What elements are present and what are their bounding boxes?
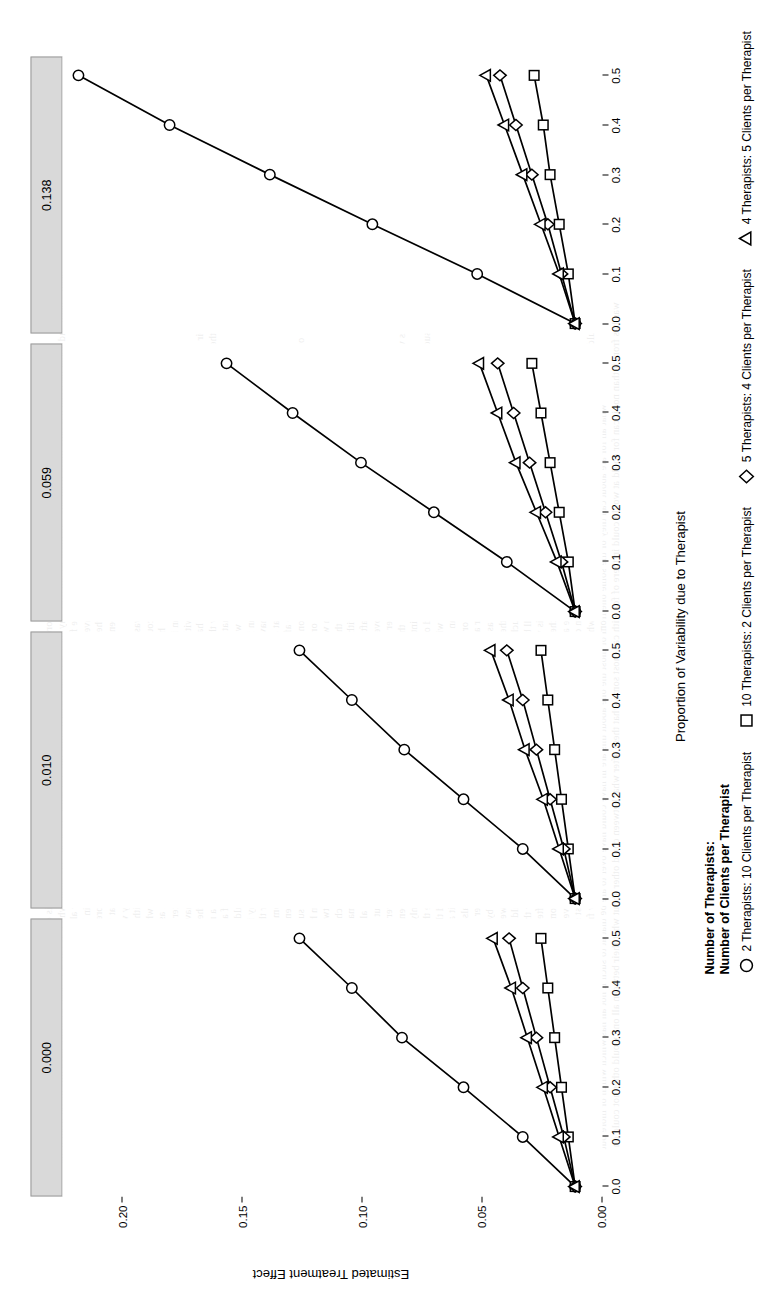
data-point: [517, 1131, 527, 1141]
data-point: [294, 645, 304, 655]
x-tick-mark: [602, 937, 608, 938]
data-point: [545, 170, 555, 180]
x-tick-mark: [602, 1135, 608, 1136]
series-line: [226, 363, 575, 611]
data-point: [346, 982, 356, 992]
x-tick-label: 0.1: [609, 1128, 621, 1144]
x-tick-label: 0.5: [609, 930, 621, 946]
x-tick-mark: [602, 649, 608, 650]
panel-strip-label: 0.010: [30, 631, 62, 909]
x-tick-mark: [602, 511, 608, 512]
legend-entry-label: 5 Therapists: 4 Clients per Therapist: [739, 269, 753, 462]
data-point: [516, 695, 528, 706]
data-point: [543, 695, 553, 705]
data-point: [549, 1032, 559, 1042]
legend-entries: 2 Therapists: 10 Clients per Therapist10…: [737, 56, 755, 974]
data-point: [486, 932, 497, 944]
x-tick-label: 0.2: [609, 216, 621, 232]
legend-entry: 2 Therapists: 10 Clients per Therapist: [737, 751, 755, 974]
y-axis: 0.000.050.100.150.20: [30, 1196, 630, 1242]
legend: Number of Therapists: Number of Clients …: [702, 56, 755, 1196]
x-tick-mark: [602, 362, 608, 363]
data-point: [73, 70, 83, 80]
x-tick-mark: [602, 898, 608, 899]
rotated-page-wrapper: which this more any when and some be tha…: [0, 0, 759, 1292]
panel-plot-area: [62, 56, 602, 334]
x-tick-label: 0.1: [609, 266, 621, 282]
x-tick-label: 0.4: [609, 692, 621, 708]
x-tick-mark: [602, 848, 608, 849]
y-tick-mark: [121, 1196, 122, 1202]
legend-title-line-1: Number of Therapists:: [702, 56, 717, 974]
data-point: [536, 646, 546, 656]
y-tick-label: 0.15: [236, 1205, 248, 1227]
x-tick-mark: [602, 987, 608, 988]
data-point: [502, 932, 514, 943]
data-point: [507, 407, 519, 418]
x-tick-mark: [602, 798, 608, 799]
data-point: [517, 844, 527, 854]
panel-series-canvas: [62, 918, 602, 1196]
panel-strip-label: 0.138: [30, 56, 62, 334]
y-tick-label: 0.00: [595, 1205, 607, 1227]
x-tick-mark: [602, 273, 608, 274]
data-point: [287, 407, 297, 417]
x-tick-label: 0.3: [609, 167, 621, 183]
x-tick-label: 0.0: [609, 603, 621, 619]
data-point: [543, 983, 553, 993]
panel-plot-area: [62, 631, 602, 909]
panel-series-canvas: [62, 343, 602, 621]
panel: 0.0590.00.10.20.30.40.5: [30, 344, 630, 622]
x-tick-mark: [602, 560, 608, 561]
data-point: [264, 169, 274, 179]
circle-marker-icon: [737, 956, 755, 974]
x-tick-label: 0.4: [609, 405, 621, 421]
x-tick-mark: [602, 461, 608, 462]
data-point: [530, 744, 542, 755]
panel: 0.1380.00.10.20.30.40.5: [30, 56, 630, 334]
data-point: [500, 645, 512, 656]
data-point: [294, 933, 304, 943]
data-point: [554, 220, 564, 230]
x-tick-mark: [602, 699, 608, 700]
series-line: [540, 938, 574, 1186]
y-tick-label: 0.10: [356, 1205, 368, 1227]
legend-entry: 4 Therapists: 5 Clients per Therapist: [737, 31, 755, 247]
x-tick-mark: [602, 174, 608, 175]
y-tick-label: 0.05: [475, 1205, 487, 1227]
triangle-marker-icon: [737, 229, 755, 247]
x-axis: 0.00.10.20.30.40.5: [602, 919, 630, 1197]
y-tick-mark: [241, 1196, 242, 1202]
x-axis-title: Proportion of Variability due to Therapi…: [672, 56, 687, 1196]
data-point: [484, 645, 495, 657]
legend-entry-label: 4 Therapists: 5 Clients per Therapist: [739, 31, 753, 224]
legend-entry: 5 Therapists: 4 Clients per Therapist: [737, 269, 755, 485]
data-point: [479, 70, 490, 82]
legend-title-line-2: Number of Clients per Therapist: [717, 56, 732, 974]
data-point: [399, 744, 409, 754]
data-point: [516, 982, 528, 993]
panel-plot-area: [62, 919, 602, 1197]
x-axis: 0.00.10.20.30.40.5: [602, 344, 630, 622]
x-axis: 0.00.10.20.30.40.5: [602, 56, 630, 334]
data-point: [472, 357, 483, 369]
series-line: [509, 938, 575, 1186]
data-point: [221, 358, 231, 368]
legend-title: Number of Therapists: Number of Clients …: [702, 56, 731, 974]
data-point: [554, 507, 564, 517]
data-point: [355, 457, 365, 467]
series-line: [299, 938, 575, 1186]
x-tick-mark: [602, 1185, 608, 1186]
x-axis-title-text: Proportion of Variability due to Therapi…: [672, 511, 687, 742]
data-point: [529, 71, 539, 81]
y-axis-title: Estimated Treatment Effect: [30, 1262, 630, 1286]
x-tick-label: 0.5: [609, 642, 621, 658]
data-point: [458, 1082, 468, 1092]
x-tick-label: 0.5: [609, 355, 621, 371]
y-tick-mark: [601, 1196, 602, 1202]
data-point: [538, 120, 548, 130]
x-tick-mark: [602, 323, 608, 324]
x-tick-mark: [602, 124, 608, 125]
panel-strip-label: 0.059: [30, 344, 62, 622]
series-line: [506, 650, 574, 898]
